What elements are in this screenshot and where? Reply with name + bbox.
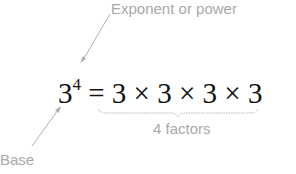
base-label: Base (0, 151, 34, 168)
equation-base: 3 (58, 77, 73, 109)
equation-exponent: 4 (73, 75, 82, 94)
exponent-label: Exponent or power (111, 0, 237, 17)
power-equation: 34 = 3 × 3 × 3 × 3 (58, 77, 262, 110)
underbrace (98, 109, 258, 117)
base-arrow-line (32, 110, 58, 146)
exponent-arrow-line (83, 14, 110, 60)
factors-label: 4 factors (153, 120, 211, 137)
equation-expansion: = 3 × 3 × 3 × 3 (88, 77, 262, 109)
